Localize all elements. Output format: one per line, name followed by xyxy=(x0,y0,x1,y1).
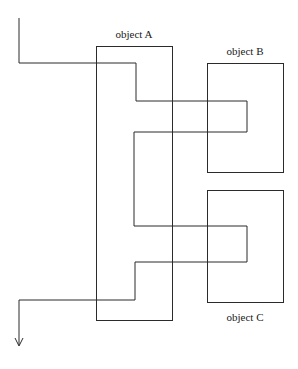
object-c-rect xyxy=(207,190,283,302)
object-a-label: object A xyxy=(116,28,153,40)
diagram-canvas: object A object B object C xyxy=(0,0,298,369)
object-b-label: object B xyxy=(227,45,264,57)
object-b-rect xyxy=(207,63,283,172)
diagram-root: object A object B object C xyxy=(0,0,298,369)
flow-polyline xyxy=(19,18,247,345)
object-c-label: object C xyxy=(227,311,264,323)
